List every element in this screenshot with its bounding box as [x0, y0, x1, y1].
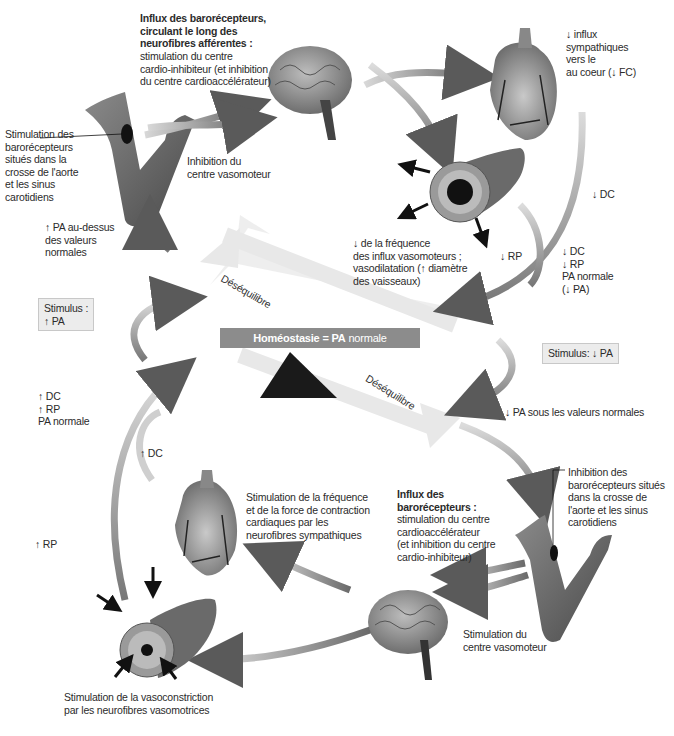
vasomotor-stimulation-label: Stimulation du centre vasomoteur	[463, 628, 547, 653]
dc-down-label: ↓ DC	[592, 188, 615, 201]
baroreceptor-stimulation-label: Stimulation des barorécepteurs situés da…	[5, 128, 78, 203]
stimulus-up-box: Stimulus : ↑ PA	[38, 298, 94, 331]
lower-result-label: ↑ DC ↑ RP PA normale	[38, 390, 90, 428]
afferent-upper-bold: Influx des barorécepteurs, circulant le …	[140, 12, 266, 50]
vasomotor-inhibition-label: Inhibition du centre vasomoteur	[187, 155, 271, 180]
rp-up-label: ↑ RP	[35, 538, 57, 551]
homeostasis-rest: normale	[346, 332, 387, 344]
stimulus-up-title: Stimulus :	[44, 302, 88, 315]
heart-upper-icon	[490, 28, 557, 140]
pa-above-label: ↑ PA au-dessus des valeurs normales	[45, 221, 114, 259]
rp-down-label: ↓ RP	[500, 250, 522, 263]
brain-upper-icon	[268, 46, 352, 140]
stimulus-down-box: Stimulus: ↓ PA	[542, 343, 619, 364]
diagram-artwork	[0, 0, 674, 736]
blood-vessel-dilated-icon	[430, 148, 525, 222]
baroreceptor-inhibition-label: Inhibition des barorécepteurs situés dan…	[568, 466, 665, 529]
stimulus-up-value: ↑ PA	[44, 315, 88, 328]
afferent-upper-text: stimulation du centre cardio-inhibiteur …	[140, 50, 271, 88]
heart-lower-icon	[175, 470, 237, 576]
sympathetic-down-label: ↓ influx sympathiques vers le au coeur (…	[566, 28, 636, 78]
homeostasis-bold: Homéostasie = PA	[253, 332, 345, 344]
dc-up-label: ↑ DC	[140, 447, 163, 460]
vasodilation-label: ↓ de la fréquence des influx vasomoteurs…	[353, 237, 467, 287]
pa-below-label: ↓ PA sous les valeurs normales	[505, 406, 644, 419]
homeostasis-bar: Homéostasie = PA normale	[220, 328, 420, 348]
cardiac-stimulation-label: Stimulation de la fréquence et de la for…	[246, 491, 370, 541]
brain-lower-icon	[368, 590, 448, 680]
stimulus-down-title: Stimulus: ↓ PA	[548, 347, 613, 360]
afferent-lower-bold: Influx des barorécepteurs :	[397, 488, 477, 513]
vasoconstriction-label: Stimulation de la vasoconstriction par l…	[64, 691, 213, 716]
upper-result-label: ↓ DC ↓ RP PA normale (↓ PA)	[562, 245, 614, 295]
afferent-lower-text: stimulation du centre cardioaccélérateur…	[397, 513, 496, 563]
